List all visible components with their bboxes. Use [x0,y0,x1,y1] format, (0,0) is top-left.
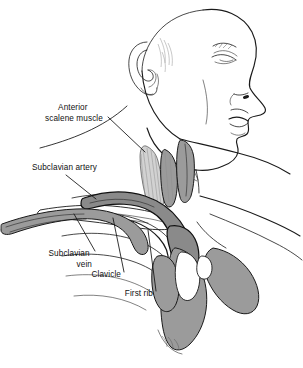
trapezius-contour [180,139,290,174]
eye-upper-lid [212,55,236,60]
label-subclavian-vein-line-1: Subclavian [49,249,90,258]
label-anterior-scalene-muscle-line-2: scalene muscle [45,114,103,123]
label-subclavian-vein: Subclavian vein [49,249,93,269]
anatomy-illustration: Anterior scalene muscle Subclavian arter… [0,0,303,368]
label-subclavian-artery: Subclavian artery [32,163,98,172]
eyebrow-hatch-4 [228,45,232,49]
face-profile-outline [196,9,265,170]
chin-crease [231,133,245,135]
nostril [243,94,250,99]
anterior-neck-contour [196,170,199,193]
nose-ala-crease [230,94,234,105]
upper-lip [231,109,248,113]
mouth-line [229,117,248,121]
label-subclavian-vein-line-2: vein [77,260,93,269]
eyebrow-hatch-3 [223,44,227,48]
axillary-fold [197,222,226,248]
eye-lower-lid [215,60,236,64]
nostril-line [234,93,248,95]
label-anterior-scalene-muscle: Anterior scalene muscle [45,103,103,123]
leader-anterior-scalene-muscle [108,117,145,152]
middle-scalene-slip [161,149,178,206]
leader-scalene-sweep [40,106,127,148]
ear-tragus [157,74,159,88]
lower-lip [230,123,248,127]
ear-lobe [141,88,153,95]
head-profile-group [142,9,265,170]
ear-helix [129,42,157,95]
clavicular-insertion-highlight [197,256,212,279]
hair-stroke-4 [158,44,161,67]
label-anterior-scalene-muscle-line-1: Anterior [58,103,88,112]
cheek-contour [203,80,207,124]
ear-group [129,38,173,95]
label-subclavian-artery-line-1: Subclavian artery [32,163,98,172]
label-first-rib-line-1: First rib [125,289,154,298]
eyebrow-hatch-2 [219,44,222,48]
anatomical-figure: Anterior scalene muscle Subclavian arter… [0,0,303,368]
muscle-shading-group [152,248,259,354]
leader-subclavian-artery [66,175,96,199]
label-clavicle: Clavicle [92,270,122,279]
ear-antihelix [137,50,153,81]
label-clavicle-line-1: Clavicle [92,270,122,279]
eye-inner-line [220,60,233,62]
label-first-rib: First rib [125,289,154,298]
deltoid-mass [204,248,259,314]
